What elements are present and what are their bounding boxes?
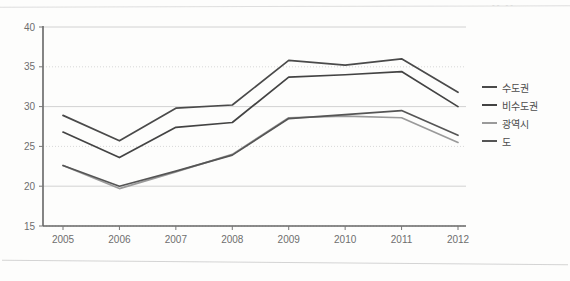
series-lines <box>63 59 458 189</box>
gridlines <box>43 27 466 226</box>
svg-text:2005: 2005 <box>52 234 75 245</box>
svg-text:20: 20 <box>24 181 36 192</box>
legend-item: 수도권 <box>482 78 568 96</box>
legend-item: 도 <box>482 132 568 150</box>
svg-text:15: 15 <box>24 221 36 232</box>
svg-text:2006: 2006 <box>108 234 131 245</box>
legend-item-label: 수도권 <box>502 80 529 95</box>
legend-item-label: 광역시 <box>502 116 529 131</box>
svg-text:35: 35 <box>24 61 36 72</box>
legend-item-label: 도 <box>502 134 511 149</box>
x-tick-labels: 20052006200720082009201020112012 <box>52 234 470 245</box>
svg-text:2007: 2007 <box>165 234 188 245</box>
svg-text:2011: 2011 <box>391 234 413 245</box>
svg-text:30: 30 <box>24 101 36 112</box>
legend-line-icon <box>482 104 497 106</box>
chart-legend: 수도권 비수도권 광역시 도 <box>482 78 568 150</box>
x-axis <box>43 226 466 230</box>
chart-page: -- -- 152025303540 200520062007200820092… <box>0 0 570 281</box>
legend-line-icon <box>482 86 497 88</box>
legend-item: 비수도권 <box>482 96 568 114</box>
legend-item: 광역시 <box>482 114 568 132</box>
y-tick-labels: 152025303540 <box>24 22 36 232</box>
svg-text:25: 25 <box>24 141 36 152</box>
y-axis <box>39 26 43 226</box>
svg-text:2012: 2012 <box>447 234 470 245</box>
svg-text:2009: 2009 <box>278 234 301 245</box>
legend-item-label: 비수도권 <box>502 98 538 113</box>
legend-line-icon <box>482 140 497 142</box>
svg-text:2010: 2010 <box>334 234 357 245</box>
svg-text:40: 40 <box>24 22 36 33</box>
svg-text:2008: 2008 <box>221 234 244 245</box>
legend-line-icon <box>482 122 497 124</box>
